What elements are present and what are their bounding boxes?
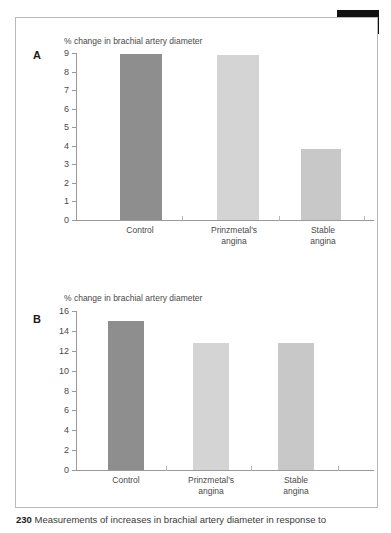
- panel-a-ytick-label-0: 0: [64, 215, 69, 225]
- panel-b-category-prinzmetals-line2: angina: [168, 486, 254, 497]
- panel-b-ytick-14: 14: [76, 331, 80, 332]
- panel-b-letter: B: [33, 313, 41, 325]
- panel-b-ytick-4: 4: [76, 430, 80, 431]
- panel-b-category-prinzmetals-angina: Prinzmetal's angina: [168, 475, 254, 497]
- panel-a-x-axis-line: [76, 220, 374, 221]
- panel-a-ytick-6: 6: [76, 109, 80, 110]
- panel-a-ytick-5: 5: [76, 127, 80, 128]
- panel-b-x-separator-1: [166, 466, 167, 471]
- panel-b-bar-control: [108, 321, 144, 470]
- panel-a-category-prinzmetals-line2: angina: [191, 236, 277, 247]
- panel-b-category-stable-angina: Stable angina: [257, 475, 335, 497]
- panel-b-ytick-2: 2: [76, 450, 80, 451]
- panel-a-x-separator-2: [279, 216, 280, 221]
- panel-a-category-prinzmetals-line1: Prinzmetal's: [191, 225, 277, 236]
- figure-caption-number: 230: [16, 514, 32, 525]
- panel-a-ytick-7: 7: [76, 90, 80, 91]
- figure-caption-text: Measurements of increases in brachial ar…: [35, 514, 326, 525]
- panel-b-category-control-line1: Control: [86, 475, 166, 486]
- panel-a-ytick-label-8: 8: [64, 67, 69, 77]
- panel-b-category-control: Control: [86, 475, 166, 486]
- panel-a-ytick-label-4: 4: [64, 141, 69, 151]
- panel-a-ytick-2: 2: [76, 183, 80, 184]
- panel-b: B % change in brachial artery diameter 1…: [16, 271, 379, 509]
- panel-a-ytick-label-9: 9: [64, 48, 69, 58]
- panel-a-ytick-0: 0: [76, 220, 80, 221]
- figure-caption: 230 Measurements of increases in brachia…: [16, 513, 382, 526]
- panel-a-ytick-label-7: 7: [64, 85, 69, 95]
- panel-b-category-stable-line2: angina: [257, 486, 335, 497]
- panel-a-category-control: Control: [100, 225, 180, 236]
- panel-a-ytick-label-5: 5: [64, 122, 69, 132]
- panel-a-ytick-label-6: 6: [64, 104, 69, 114]
- panel-b-bar-stable-angina: [278, 343, 314, 470]
- panel-a-ytick-9: 9: [76, 53, 80, 54]
- panel-a-bar-stable-angina: [301, 149, 341, 220]
- panel-b-plot-area: 16 14 12 10 8 6 4 2 0: [76, 311, 364, 471]
- figure-frame: A % change in brachial artery diameter 9…: [15, 17, 378, 508]
- panel-b-x-axis-line: [76, 470, 374, 471]
- panel-a: A % change in brachial artery diameter 9…: [16, 23, 379, 271]
- panel-a-plot-area: 9 8 7 6 5 4 3 2 1: [76, 53, 364, 221]
- panel-a-category-prinzmetals-angina: Prinzmetal's angina: [191, 225, 277, 247]
- panel-a-ytick-8: 8: [76, 72, 80, 73]
- panel-a-ytick-4: 4: [76, 146, 80, 147]
- panel-a-category-stable-line2: angina: [284, 236, 362, 247]
- panel-b-bar-prinzmetals-angina: [193, 343, 229, 470]
- panel-b-ytick-6: 6: [76, 410, 80, 411]
- panel-b-ytick-label-4: 4: [64, 425, 69, 435]
- panel-b-ytick-8: 8: [76, 391, 80, 392]
- panel-a-letter: A: [33, 49, 41, 61]
- panel-a-ytick-label-3: 3: [64, 159, 69, 169]
- panel-a-category-stable-angina: Stable angina: [284, 225, 362, 247]
- panel-a-bar-prinzmetals-angina: [217, 55, 259, 220]
- panel-b-category-prinzmetals-line1: Prinzmetal's: [168, 475, 254, 486]
- panel-a-axis-title: % change in brachial artery diameter: [64, 36, 202, 46]
- panel-b-ytick-label-2: 2: [64, 445, 69, 455]
- panel-b-x-separator-3: [338, 466, 339, 471]
- panel-b-ytick-label-12: 12: [59, 346, 69, 356]
- panel-a-category-stable-line1: Stable: [284, 225, 362, 236]
- panel-a-ytick-3: 3: [76, 164, 80, 165]
- panel-b-ytick-12: 12: [76, 351, 80, 352]
- panel-a-bar-control: [120, 54, 162, 220]
- panel-b-ytick-0: 0: [76, 470, 80, 471]
- panel-a-ytick-label-1: 1: [64, 196, 69, 206]
- panel-b-category-stable-line1: Stable: [257, 475, 335, 486]
- panel-a-ytick-1: 1: [76, 201, 80, 202]
- panel-b-ytick-16: 16: [76, 311, 80, 312]
- panel-b-ytick-10: 10: [76, 371, 80, 372]
- panel-a-category-control-line1: Control: [100, 225, 180, 236]
- panel-b-x-separator-2: [251, 466, 252, 471]
- panel-b-ytick-label-14: 14: [59, 326, 69, 336]
- panel-b-ytick-label-16: 16: [59, 306, 69, 316]
- panel-b-ytick-label-6: 6: [64, 405, 69, 415]
- panel-b-ytick-label-8: 8: [64, 386, 69, 396]
- panel-b-axis-title: % change in brachial artery diameter: [64, 293, 202, 303]
- panel-a-y-axis-line: [76, 53, 77, 221]
- panel-a-x-separator-1: [182, 216, 183, 221]
- panel-a-x-separator-3: [364, 216, 365, 221]
- panel-a-ytick-label-2: 2: [64, 178, 69, 188]
- panel-b-ytick-label-10: 10: [59, 366, 69, 376]
- panel-b-ytick-label-0: 0: [64, 465, 69, 475]
